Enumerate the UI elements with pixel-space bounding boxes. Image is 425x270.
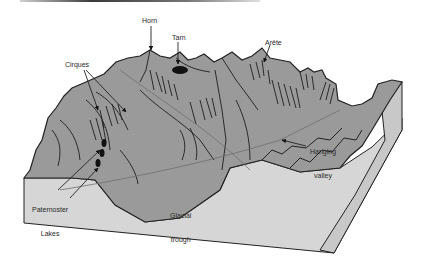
paternoster-lake-1 <box>102 139 107 147</box>
paternoster-lake-2 <box>100 149 105 157</box>
label-paternoster-line2: Lakes <box>32 230 68 238</box>
label-paternoster-line1: Paternoster <box>32 206 68 214</box>
label-glacial-line1: Glacial <box>170 212 191 220</box>
label-hanging-line2: valley <box>310 172 336 180</box>
tarn-lake <box>172 66 188 74</box>
label-cirques: Cirques <box>65 61 89 69</box>
label-hanging-valley: Hanging valley <box>310 132 336 188</box>
label-paternoster-lakes: Paternoster Lakes <box>32 190 68 246</box>
label-arete: Arête <box>265 39 282 47</box>
label-glacial-line2: trough <box>170 236 191 244</box>
label-tarn: Tarn <box>172 34 186 42</box>
paternoster-lake-3 <box>96 159 101 167</box>
label-hanging-line1: Hanging <box>310 148 336 156</box>
label-horn: Horn <box>142 17 157 25</box>
label-glacial-trough: Glacial trough <box>170 196 191 252</box>
